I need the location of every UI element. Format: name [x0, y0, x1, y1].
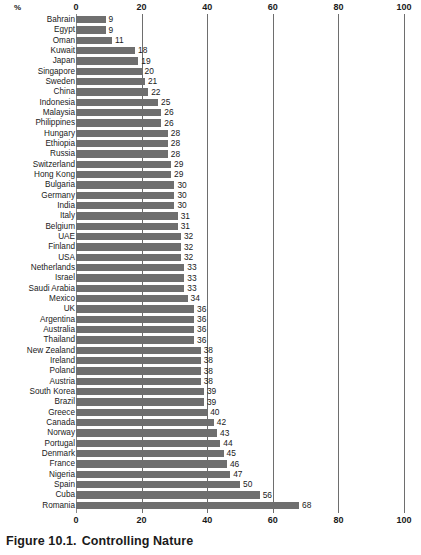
bar-value-kuwait: 18 [138, 46, 147, 55]
bar-value-portugal: 44 [223, 439, 232, 448]
category-label-mexico: Mexico [0, 294, 75, 304]
bar-philippines [76, 119, 161, 126]
bar-value-india: 30 [177, 201, 186, 210]
bar-bahrain [76, 16, 106, 23]
bar-sweden [76, 78, 145, 85]
category-label-russia: Russia [0, 149, 75, 159]
category-label-hungary: Hungary [0, 129, 75, 139]
bar-value-thailand: 36 [197, 336, 206, 345]
bar-row: UAE32 [0, 232, 421, 242]
bar-row: Ethiopia28 [0, 139, 421, 149]
x-tick-label-60: 60 [268, 2, 278, 13]
category-label-oman: Oman [0, 36, 75, 46]
category-label-uk: UK [0, 304, 75, 314]
bar-row: Norway43 [0, 428, 421, 438]
bar-finland [76, 243, 181, 250]
bar-row: Australia36 [0, 325, 421, 335]
bar-france [76, 460, 227, 467]
bar-ethiopia [76, 140, 168, 147]
bar-argentina [76, 316, 194, 323]
bar-row: USA32 [0, 253, 421, 263]
category-label-philippines: Philippines [0, 118, 75, 128]
bar-row: Finland32 [0, 242, 421, 252]
bar-row: Japan19 [0, 56, 421, 66]
x-tick-label-100: 100 [396, 2, 411, 13]
bar-row: Cuba56 [0, 490, 421, 500]
bar-value-finland: 32 [184, 243, 193, 252]
category-label-indonesia: Indonesia [0, 98, 75, 108]
bar-south-korea [76, 388, 204, 395]
bar-row: Italy31 [0, 211, 421, 221]
figure-caption: Figure 10.1.Controlling Nature [6, 534, 193, 548]
bar-row: Russia28 [0, 149, 421, 159]
x-tick-label-20: 20 [137, 515, 147, 526]
bar-value-israel: 33 [187, 274, 196, 283]
category-label-spain: Spain [0, 480, 75, 490]
category-label-argentina: Argentina [0, 315, 75, 325]
category-label-portugal: Portugal [0, 439, 75, 449]
category-label-brazil: Brazil [0, 397, 75, 407]
category-label-cuba: Cuba [0, 490, 75, 500]
bar-row: Nigeria47 [0, 470, 421, 480]
bar-belgium [76, 223, 178, 230]
bar-row: South Korea39 [0, 387, 421, 397]
bar-value-brazil: 39 [207, 398, 216, 407]
bar-row: Ireland38 [0, 356, 421, 366]
bar-row: Poland38 [0, 366, 421, 376]
category-label-poland: Poland [0, 366, 75, 376]
bar-value-sweden: 21 [148, 77, 157, 86]
bar-row: Romania68 [0, 501, 421, 511]
bar-row: India30 [0, 201, 421, 211]
bar-value-singapore: 20 [145, 67, 154, 76]
bar-row: Germany30 [0, 191, 421, 201]
category-label-uae: UAE [0, 232, 75, 242]
bar-value-malaysia: 26 [164, 108, 173, 117]
x-tick-label-100: 100 [396, 515, 411, 526]
category-label-kuwait: Kuwait [0, 46, 75, 56]
bar-row: Argentina36 [0, 315, 421, 325]
category-label-hong-kong: Hong Kong [0, 170, 75, 180]
category-label-netherlands: Netherlands [0, 263, 75, 273]
bar-value-usa: 32 [184, 253, 193, 262]
bar-value-cuba: 56 [263, 491, 272, 500]
bar-row: Spain50 [0, 480, 421, 490]
category-label-bahrain: Bahrain [0, 15, 75, 25]
bar-row: Mexico34 [0, 294, 421, 304]
bar-canada [76, 419, 214, 426]
bar-value-new-zealand: 38 [204, 346, 213, 355]
bar-value-switzerland: 29 [174, 160, 183, 169]
category-label-germany: Germany [0, 191, 75, 201]
bar-hong-kong [76, 171, 171, 178]
x-tick-label-0: 0 [73, 515, 78, 526]
category-label-nigeria: Nigeria [0, 470, 75, 480]
bar-row: Brazil39 [0, 397, 421, 407]
category-label-sweden: Sweden [0, 77, 75, 87]
bar-egypt [76, 26, 106, 33]
bar-row: Oman11 [0, 36, 421, 46]
bar-row: Greece40 [0, 408, 421, 418]
bar-value-romania: 68 [302, 501, 311, 510]
bar-switzerland [76, 161, 171, 168]
figure-caption-title: Controlling Nature [82, 534, 194, 548]
bar-uk [76, 305, 194, 312]
bar-denmark [76, 450, 224, 457]
category-label-china: China [0, 87, 75, 97]
x-tick-label-80: 80 [333, 2, 343, 13]
bar-brazil [76, 398, 204, 405]
bar-row: Israel33 [0, 273, 421, 283]
bar-row: Portugal44 [0, 439, 421, 449]
bar-value-denmark: 45 [227, 449, 236, 458]
bar-thailand [76, 336, 194, 343]
bar-row: UK36 [0, 304, 421, 314]
category-label-japan: Japan [0, 56, 75, 66]
category-label-malaysia: Malaysia [0, 108, 75, 118]
bar-norway [76, 429, 217, 436]
x-tick-label-20: 20 [137, 2, 147, 13]
category-label-canada: Canada [0, 418, 75, 428]
x-axis-top: 020406080100 [0, 2, 421, 14]
bar-value-argentina: 36 [197, 315, 206, 324]
bar-nigeria [76, 471, 230, 478]
category-label-south-korea: South Korea [0, 387, 75, 397]
bar-row: Hong Kong29 [0, 170, 421, 180]
x-tick-label-40: 40 [202, 515, 212, 526]
